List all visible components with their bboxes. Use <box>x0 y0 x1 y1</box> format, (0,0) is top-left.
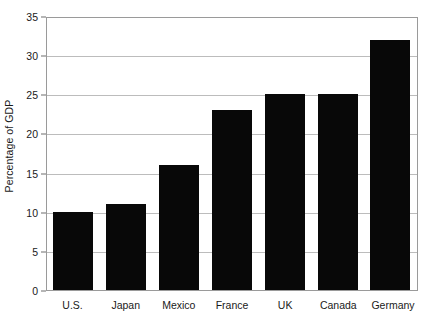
y-tick-label: 20 <box>26 128 38 140</box>
x-tick-label: France <box>212 292 252 311</box>
y-tick-label: 25 <box>26 89 38 101</box>
plot-area <box>46 17 418 291</box>
y-axis-ticks: 05101520253035 <box>0 0 46 321</box>
y-tick-label: 15 <box>26 168 38 180</box>
bar-uk <box>265 94 305 290</box>
y-tick-label: 10 <box>26 207 38 219</box>
bar-mexico <box>159 165 199 290</box>
y-tick-label: 0 <box>32 285 38 297</box>
x-axis-ticks: U.S.JapanMexicoFranceUKCanadaGermany <box>46 292 418 321</box>
bar-series <box>47 18 417 290</box>
y-tick-label: 30 <box>26 50 38 62</box>
y-tick-label: 35 <box>26 11 38 23</box>
y-tick-label: 5 <box>32 246 38 258</box>
bar-chart: Percentage of GDP 05101520253035 U.S.Jap… <box>0 0 433 321</box>
bar-japan <box>106 204 146 290</box>
bar-france <box>212 110 252 290</box>
bar-canada <box>318 94 358 290</box>
x-tick-label: Canada <box>318 292 358 311</box>
x-tick-label: U.S. <box>53 292 93 311</box>
x-tick-label: Mexico <box>159 292 199 311</box>
x-tick-label: Germany <box>371 292 411 311</box>
x-tick-label: UK <box>265 292 305 311</box>
x-tick-label: Japan <box>106 292 146 311</box>
bar-u-s <box>53 212 93 290</box>
bar-germany <box>370 40 410 291</box>
